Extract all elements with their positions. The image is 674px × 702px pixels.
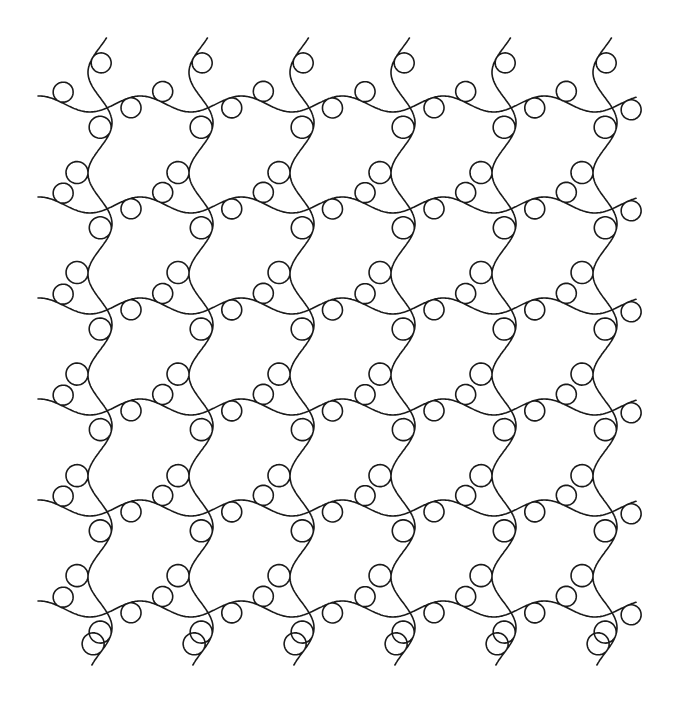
horizontal-strands	[38, 81, 641, 625]
vertical-strand	[167, 38, 213, 665]
horizontal-strand	[38, 81, 641, 120]
vertical-strand	[268, 38, 314, 665]
vertical-strand	[66, 38, 112, 665]
horizontal-strand	[38, 586, 641, 625]
vertical-strands	[66, 38, 617, 665]
vertical-strand	[571, 38, 617, 665]
horizontal-strand	[38, 182, 641, 221]
horizontal-strand	[38, 283, 641, 322]
vertical-strand	[369, 38, 415, 665]
quilting-pattern-canvas	[0, 0, 674, 702]
horizontal-strand	[38, 384, 641, 423]
horizontal-strand	[38, 485, 641, 524]
vertical-strand	[470, 38, 516, 665]
